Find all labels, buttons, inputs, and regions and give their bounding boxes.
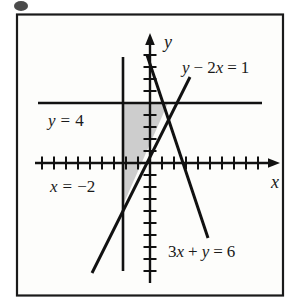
eq1-coef: 2 <box>207 58 216 77</box>
eq1-var-x: x <box>215 58 224 77</box>
svg-text:y=4: y=4 <box>46 111 84 130</box>
eq3-var: y <box>46 111 56 130</box>
eq1-equals: = <box>227 58 237 77</box>
eq1-rhs: 1 <box>241 58 250 77</box>
eq2-coef: 3 <box>168 242 177 261</box>
eq3-rhs: 4 <box>75 111 84 130</box>
eq4-var: x <box>49 177 58 196</box>
eq4-rhs: −2 <box>77 177 95 196</box>
eq4-equals: = <box>63 177 73 196</box>
svg-text:x=−2: x=−2 <box>49 177 95 196</box>
eq2-var-x: x <box>176 242 185 261</box>
figure-container: y x y−2x=1 3x+y=6 y=4 x=−2 <box>0 0 299 308</box>
x-axis-label: x <box>270 172 279 192</box>
scan-artifact-dot <box>14 1 28 11</box>
eq3-equals: = <box>61 111 71 130</box>
eq2-equals: = <box>213 242 223 261</box>
eq1-var-y: y <box>180 58 190 77</box>
y-axis-label: y <box>162 32 172 52</box>
eq2-op: + <box>188 242 198 261</box>
eq1-op: − <box>194 58 204 77</box>
coordinate-graph: y x y−2x=1 3x+y=6 y=4 x=−2 <box>0 0 299 308</box>
annotation-line-y-equals-4: y=4 <box>46 111 84 130</box>
eq2-var-y: y <box>200 242 210 261</box>
eq2-rhs: 6 <box>227 242 236 261</box>
annotation-line-x-equals-neg2: x=−2 <box>49 177 95 196</box>
